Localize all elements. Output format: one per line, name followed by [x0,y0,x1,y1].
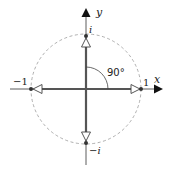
y-axis-arrow-icon [82,8,91,17]
arrowhead-up-icon [82,38,91,47]
arrowhead-right-icon [131,85,140,94]
angle-arc [86,67,108,89]
y-axis-label: y [95,6,103,19]
label-minus-i: −i [89,145,101,156]
complex-plane-diagram: y x i −i −1 1 90° [0,0,170,172]
angle-label: 90° [107,67,125,78]
point-minus-1 [29,87,33,91]
x-axis-label: x [154,73,161,86]
label-minus-1: −1 [13,76,28,87]
label-i: i [89,24,92,35]
arrowhead-down-icon [82,132,91,141]
label-1: 1 [143,77,149,88]
arrowhead-left-icon [33,85,42,94]
point-minus-i [84,141,88,145]
point-i [84,34,88,38]
